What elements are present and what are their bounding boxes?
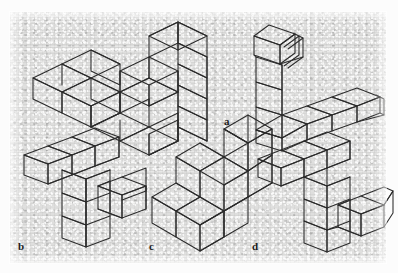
label-b: b (18, 241, 24, 252)
figure-root: a b c d (0, 0, 398, 273)
figure-a (254, 25, 384, 151)
label-c: c (149, 241, 154, 252)
label-a: a (224, 116, 230, 127)
standard-figure (33, 22, 207, 155)
figure-c (152, 115, 272, 251)
figure-b (24, 128, 146, 247)
label-d: d (252, 241, 258, 252)
cube-figures-artwork (0, 0, 398, 273)
